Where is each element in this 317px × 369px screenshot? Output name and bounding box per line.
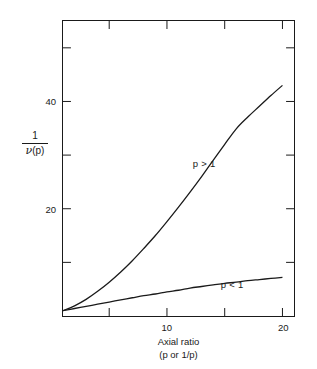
y-axis-title-denominator-arg: (p): [32, 145, 44, 156]
data-curves: [63, 85, 282, 310]
y-axis-title: 1 ν(p): [14, 130, 56, 157]
curve-series-0: [63, 85, 282, 310]
y-axis-title-numerator: 1: [14, 130, 56, 143]
curve-series-1: [63, 277, 282, 310]
x-axis-title-line-2: (p or 1/p): [62, 349, 295, 362]
x-axis-title-line-1: Axial ratio: [62, 336, 295, 349]
plot-svg: [63, 21, 294, 316]
y-axis-title-denominator: ν(p): [14, 144, 56, 157]
tick-marks: [63, 21, 294, 316]
plot-frame: [62, 20, 295, 317]
curve-label-0: p > 1: [193, 158, 216, 169]
x-axis-title: Axial ratio (p or 1/p): [62, 336, 295, 361]
curve-label-1: p < 1: [221, 278, 244, 289]
x-tick-label-20: 20: [278, 322, 289, 333]
y-tick-label-40: 40: [38, 96, 56, 107]
x-tick-label-10: 10: [162, 322, 173, 333]
figure-container: 2040 1020 p > 1p < 1 1 ν(p) Axial ratio …: [0, 0, 317, 369]
y-tick-label-20: 20: [38, 204, 56, 215]
